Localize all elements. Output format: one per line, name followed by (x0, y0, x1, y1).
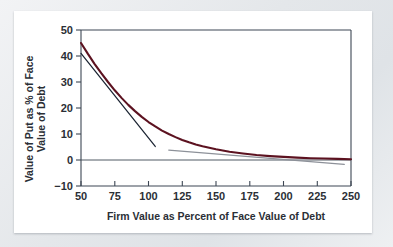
series-line-1 (81, 53, 155, 146)
data-series-layer (81, 43, 351, 164)
x-tick-label: 125 (173, 190, 191, 202)
series-line-0 (81, 43, 351, 159)
y-tick-label: 0 (67, 154, 73, 166)
y-tick-label: 10 (61, 128, 73, 140)
y-tick-label: 30 (61, 76, 73, 88)
x-tick-label: 250 (342, 190, 360, 202)
x-tick-label: 50 (75, 190, 87, 202)
x-axis-title: Firm Value as Percent of Face Value of D… (107, 210, 326, 222)
y-tick-label: 40 (61, 50, 73, 62)
y-tick-labels: 50 40 30 20 10 0 −10 (54, 24, 73, 192)
figure-card: Value of Put as % of Face Value of Debt … (14, 11, 372, 233)
x-tick-label: 75 (109, 190, 121, 202)
y-tick-label: 20 (61, 102, 73, 114)
plot-frame (81, 30, 351, 186)
x-tick-label: 150 (207, 190, 225, 202)
x-tick-label: 200 (274, 190, 292, 202)
put-value-line-chart: Value of Put as % of Face Value of Debt … (14, 11, 372, 233)
x-tick-label: 225 (308, 190, 326, 202)
series-line-2 (169, 150, 345, 164)
y-axis-title-line2: Value of Debt (35, 85, 47, 152)
y-tick-label: −10 (54, 180, 73, 192)
chart-figure: Value of Put as % of Face Value of Debt … (14, 11, 372, 233)
x-tick-labels: 50 75 100 125 150 175 200 225 250 (75, 190, 360, 202)
x-tick-marks (81, 181, 351, 186)
x-tick-label: 175 (241, 190, 259, 202)
y-axis-title-line1: Value of Put as % of Face (23, 56, 35, 183)
x-tick-label: 100 (139, 190, 157, 202)
y-tick-label: 50 (61, 24, 73, 36)
y-tick-marks (76, 30, 81, 186)
